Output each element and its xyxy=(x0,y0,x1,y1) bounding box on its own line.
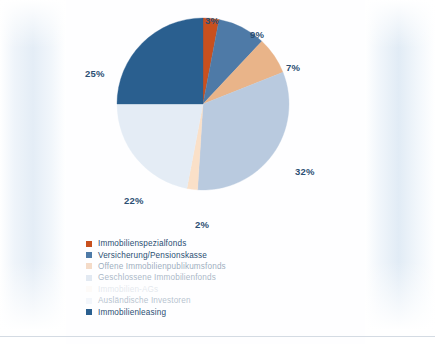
slice-label-immobilien-ags: 2% xyxy=(195,219,209,230)
legend-label-versicherung-pensionskasse: Versicherung/Pensionskasse xyxy=(98,251,207,260)
legend-item-geschlossene-immobilienfonds[interactable]: Geschlossene Immobilienfonds xyxy=(86,272,326,283)
slice-label-offene-immobilienpublikumsfonds: 7% xyxy=(286,62,300,73)
legend-swatch-icon-offene-immobilienpublikumsfonds xyxy=(86,263,92,269)
legend-label-immobilienleasing: Immobilienleasing xyxy=(98,308,166,317)
page-bottom-rule xyxy=(0,336,435,337)
legend-label-immobilienspezialfonds: Immobilienspezialfonds xyxy=(98,239,186,248)
slice-label-geschlossene-immobilienfonds: 32% xyxy=(295,166,315,177)
chart-legend: Immobilienspezialfonds Versicherung/Pens… xyxy=(86,238,326,318)
legend-swatch-icon-immobilienspezialfonds xyxy=(86,241,92,247)
legend-item-immobilienleasing[interactable]: Immobilienleasing xyxy=(86,306,326,317)
legend-item-immobilienspezialfonds[interactable]: Immobilienspezialfonds xyxy=(86,238,326,249)
slice-label-immobilienspezialfonds: 3% xyxy=(205,15,219,26)
pie-slice-group xyxy=(117,18,289,190)
pie-chart: 3% 9% 7% 32% 2% 22% 25% xyxy=(0,0,435,240)
legend-label-immobilien-ags: Immobilien-AGs xyxy=(98,285,158,294)
chart-page: 3% 9% 7% 32% 2% 22% 25% Immobilienspezia… xyxy=(0,0,435,344)
legend-item-auslaendische-investoren[interactable]: Ausländische Investoren xyxy=(86,295,326,306)
slice-label-auslaendische-investoren: 22% xyxy=(124,195,144,206)
legend-swatch-icon-geschlossene-immobilienfonds xyxy=(86,275,92,281)
legend-swatch-icon-versicherung-pensionskasse xyxy=(86,252,92,258)
legend-swatch-icon-immobilien-ags xyxy=(86,286,92,292)
legend-item-versicherung-pensionskasse[interactable]: Versicherung/Pensionskasse xyxy=(86,249,326,260)
slice-label-immobilienleasing: 25% xyxy=(85,68,105,79)
pie-chart-svg xyxy=(117,18,289,190)
legend-item-immobilien-ags[interactable]: Immobilien-AGs xyxy=(86,284,326,295)
legend-label-auslaendische-investoren: Ausländische Investoren xyxy=(98,296,191,305)
legend-item-offene-immobilienpublikumsfonds[interactable]: Offene Immobilienpublikumsfonds xyxy=(86,261,326,272)
pie-slice[interactable] xyxy=(117,18,203,104)
legend-swatch-icon-immobilienleasing xyxy=(86,309,92,315)
slice-label-versicherung-pensionskasse: 9% xyxy=(250,29,264,40)
legend-swatch-icon-auslaendische-investoren xyxy=(86,298,92,304)
legend-label-offene-immobilienpublikumsfonds: Offene Immobilienpublikumsfonds xyxy=(98,262,226,271)
legend-label-geschlossene-immobilienfonds: Geschlossene Immobilienfonds xyxy=(98,273,216,282)
